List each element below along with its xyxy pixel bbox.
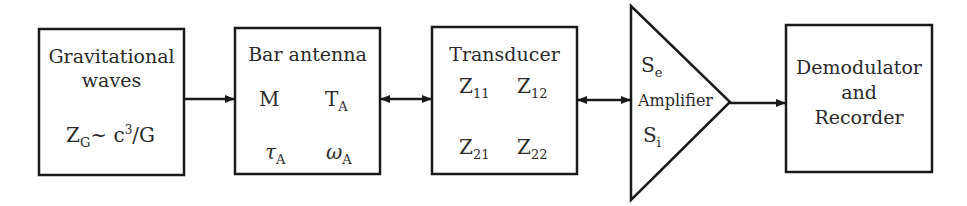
transducer-z22: Z22 (517, 137, 547, 161)
antenna-param-temperature: TA (325, 89, 348, 113)
formula-sub: G (80, 135, 90, 150)
amplifier-label: Amplifier (638, 93, 713, 109)
demod-label-line1: Demodulator (786, 58, 932, 77)
antenna-param-tau: τA (265, 142, 285, 166)
transducer-z12: Z12 (517, 76, 547, 100)
formula-base: Z (66, 123, 80, 147)
formula-tail: /G (132, 123, 155, 147)
antenna-param-mass: M (259, 89, 279, 109)
transducer-z21: Z21 (459, 137, 489, 161)
formula-rest: ~ c (90, 123, 124, 147)
amplifier-param-se: Se (641, 55, 662, 79)
gw-impedance-formula: ZG~ c3/G (66, 124, 155, 149)
gw-label-line2: waves (39, 71, 184, 90)
demod-label-line2: and (786, 83, 932, 102)
gw-label-line1: Gravitational (39, 47, 184, 66)
antenna-param-omega: ωA (326, 142, 352, 166)
diagram-canvas (0, 0, 967, 206)
amplifier-param-si: Si (643, 125, 661, 149)
demod-label-line3: Recorder (786, 108, 932, 127)
transducer-z11: Z11 (459, 76, 489, 100)
antenna-label: Bar antenna (235, 45, 380, 64)
transducer-label: Transducer (432, 45, 577, 64)
